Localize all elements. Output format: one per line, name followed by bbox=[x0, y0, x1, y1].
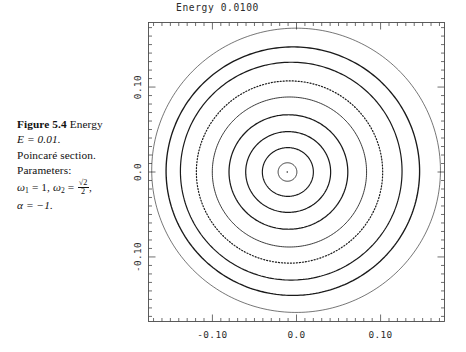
poincare-section-plot: -0.100.00.10 0.100.0-0.10 bbox=[0, 0, 466, 352]
x-tick-label: 0.10 bbox=[368, 329, 392, 340]
torus-5 bbox=[212, 97, 366, 247]
x-tick-label: 0.0 bbox=[287, 329, 305, 340]
fixed-point-dot bbox=[287, 171, 289, 173]
torus-2 bbox=[166, 47, 420, 295]
torus-1-outer bbox=[152, 28, 441, 312]
figure-container: Figure 5.4 Energy E = 0.01. Poincaré sec… bbox=[0, 0, 466, 352]
x-tick-label: -0.10 bbox=[197, 329, 227, 340]
torus-7 bbox=[246, 132, 331, 213]
y-tick-label: 0.0 bbox=[132, 163, 143, 181]
invariant-curves bbox=[152, 28, 441, 312]
torus-4-dotted bbox=[196, 81, 382, 263]
y-tick-label: 0.10 bbox=[132, 75, 143, 99]
y-tick-labels: 0.100.0-0.10 bbox=[132, 75, 143, 272]
x-tick-labels: -0.100.00.10 bbox=[197, 329, 392, 340]
fixed-point-marker bbox=[287, 171, 289, 173]
y-tick-label: -0.10 bbox=[132, 242, 143, 272]
